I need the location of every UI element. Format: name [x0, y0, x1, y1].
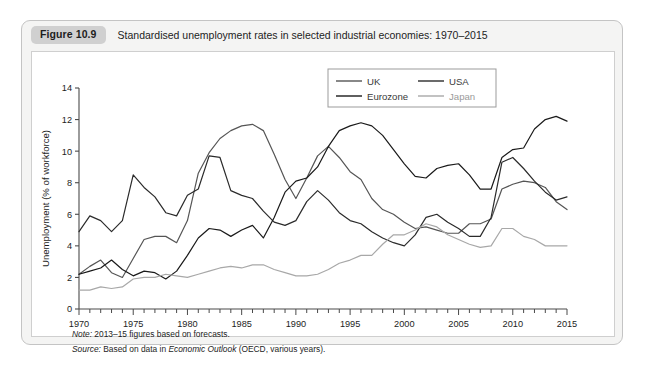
- legend-label-japan: Japan: [449, 91, 475, 102]
- y-tick-label: 10: [62, 147, 72, 157]
- source-text-a: Based on data in: [101, 344, 169, 354]
- figure-source: Source: Based on data in Economic Outloo…: [72, 344, 325, 354]
- x-tick-label: 1985: [231, 319, 251, 329]
- legend-label-uk: UK: [367, 76, 381, 87]
- y-tick-label: 0: [67, 304, 72, 314]
- figure-card: Figure 10.9 Standardised unemployment ra…: [21, 20, 623, 345]
- x-tick-label: 2005: [448, 319, 468, 329]
- y-tick-label: 14: [62, 83, 72, 93]
- note-label: Note:: [72, 329, 92, 339]
- source-text-b: (OECD, various years).: [236, 344, 325, 354]
- legend-label-usa: USA: [449, 76, 469, 87]
- y-tick-label: 2: [67, 273, 72, 283]
- figure-note: Note: 2013–15 figures based on forecasts…: [72, 329, 230, 339]
- source-publication: Economic Outlook: [168, 344, 236, 354]
- x-tick-label: 1975: [123, 319, 143, 329]
- legend-label-eurozone: Eurozone: [367, 91, 408, 102]
- x-tick-label: 2015: [557, 319, 577, 329]
- y-axis-title-text: Unemployment (% of workforce): [40, 130, 51, 267]
- note-text: 2013–15 figures based on forecasts.: [92, 329, 230, 339]
- x-tick-label: 1970: [69, 319, 89, 329]
- x-tick-label: 1995: [340, 319, 360, 329]
- y-tick-label: 12: [62, 115, 72, 125]
- x-tick-label: 1990: [286, 319, 306, 329]
- source-label: Source:: [72, 344, 101, 354]
- figure-number-badge: Figure 10.9: [31, 26, 106, 44]
- figure-title: Standardised unemployment rates in selec…: [118, 30, 488, 41]
- figure-body: 02468101214 1970197519801985199019952000…: [31, 51, 615, 337]
- x-tick-label: 2010: [503, 319, 523, 329]
- x-tick-label: 1980: [177, 319, 197, 329]
- unemployment-line-chart: 02468101214 1970197519801985199019952000…: [32, 52, 614, 336]
- chart-background: [32, 52, 614, 336]
- chart-legend: UKUSAEurozoneJapan: [328, 69, 496, 107]
- y-tick-label: 4: [67, 241, 72, 251]
- y-axis-title: Unemployment (% of workforce): [40, 130, 51, 267]
- y-tick-label: 8: [67, 178, 72, 188]
- figure-header: Figure 10.9 Standardised unemployment ra…: [22, 21, 624, 49]
- y-tick-label: 6: [67, 210, 72, 220]
- x-tick-label: 2000: [394, 319, 414, 329]
